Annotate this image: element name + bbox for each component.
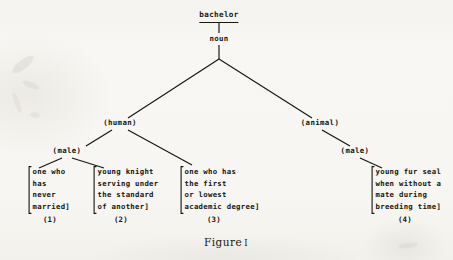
open-bracket-icon: [371, 166, 375, 214]
gloss-line: young fur seal: [376, 166, 442, 178]
gloss-line: or lowest: [185, 189, 260, 201]
leaf-number-4: (4): [398, 215, 412, 224]
gloss-line: married]: [33, 201, 71, 213]
leaf-gloss-1: one whohasnevermarried]: [28, 166, 70, 214]
node-animal: (animal): [301, 118, 339, 129]
root-headword: bachelor: [199, 10, 238, 23]
leaf-number-3: (3): [207, 215, 221, 224]
root-part-of-speech: noun: [209, 34, 228, 45]
open-bracket-icon: [180, 166, 184, 214]
gloss-line: academic degree]: [185, 201, 260, 213]
gloss-line: one who has: [185, 166, 260, 178]
gloss-line: serving under: [98, 178, 159, 190]
edge-apex-to-animal: [219, 59, 312, 118]
edge-human-to-male: [86, 130, 112, 146]
node-male-animal: (male): [341, 146, 370, 157]
edge-human-to-leaf3: [128, 130, 192, 165]
leaf-gloss-3: one who hasthe firstor lowestacademic de…: [180, 166, 260, 214]
gloss-line: breeding time]: [376, 201, 442, 213]
leaf-number-1: (1): [43, 215, 57, 224]
node-male-human: (male): [53, 146, 82, 157]
gloss-line: the standard: [98, 189, 159, 201]
leaf-gloss-3-text: one who hasthe firstor lowestacademic de…: [185, 166, 260, 214]
leaf-gloss-4-text: young fur sealwhen without amate duringb…: [376, 166, 442, 214]
figure-caption: FigureI: [204, 236, 248, 248]
node-human: (human): [103, 118, 137, 129]
leaf-number-2: (2): [114, 215, 128, 224]
leaf-gloss-2-text: young knightserving underthe standardof …: [98, 166, 159, 214]
open-bracket-icon: [28, 166, 32, 214]
close-bracket-icon: ]: [437, 202, 442, 211]
gloss-line: never: [33, 189, 71, 201]
gloss-line: has: [33, 178, 71, 190]
close-bracket-icon: ]: [255, 202, 260, 211]
figure-caption-word: Figure: [204, 236, 242, 248]
leaf-gloss-1-text: one whohasnevermarried]: [33, 166, 71, 214]
gloss-line: young knight: [98, 166, 159, 178]
gloss-line: the first: [185, 178, 260, 190]
gloss-line: one who: [33, 166, 71, 178]
figure-caption-number: I: [244, 238, 248, 248]
figure-canvas: bachelor noun (human) (animal) (male) (m…: [0, 0, 453, 260]
edge-animal-to-male: [322, 130, 350, 146]
gloss-line: when without a: [376, 178, 442, 190]
open-bracket-icon: [93, 166, 97, 214]
edge-apex-to-human: [128, 59, 219, 118]
leaf-gloss-4: young fur sealwhen without amate duringb…: [371, 166, 441, 214]
close-bracket-icon: ]: [144, 202, 149, 211]
gloss-line: of another]: [98, 201, 159, 213]
close-bracket-icon: ]: [65, 202, 70, 211]
gloss-line: mate during: [376, 189, 442, 201]
leaf-gloss-2: young knightserving underthe standardof …: [93, 166, 159, 214]
